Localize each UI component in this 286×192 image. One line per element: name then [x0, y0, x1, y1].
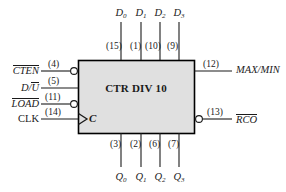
signal-label-q1: Q1: [133, 172, 149, 184]
clock-input-label: C: [89, 113, 96, 124]
signal-label-d0: D0: [113, 8, 129, 20]
pin-number-d3: (9): [167, 42, 178, 52]
pin-number-d2: (10): [145, 42, 161, 52]
signal-label-cten: CTEN: [0, 65, 39, 77]
pin-number-q3: (7): [168, 140, 179, 150]
signal-label-q0: Q0: [113, 172, 129, 184]
pin-number-q2: (6): [149, 140, 160, 150]
pin-number-d0: (15): [106, 42, 122, 52]
signal-label-rco: RCO: [236, 114, 257, 126]
signal-label-d2: D2: [152, 8, 168, 20]
signal-label-q2: Q2: [152, 172, 168, 184]
pin-number-q1: (2): [130, 140, 141, 150]
pin-number-d1: (1): [130, 42, 141, 52]
signal-label-maxmin: MAX/MIN: [236, 65, 280, 76]
signal-label-q3: Q3: [171, 172, 187, 184]
pin-number-clk: (14): [45, 108, 61, 118]
block-title: CTR DIV 10: [78, 83, 194, 94]
signal-label-du: D/U: [0, 82, 39, 94]
logic-block-diagram: [0, 0, 286, 192]
signal-label-d3: D3: [171, 8, 187, 20]
pin-number-rco: (13): [207, 108, 223, 118]
counter-block-diagram-page: { "diagram": { "title": "CTR DIV 10", "b…: [0, 0, 286, 192]
inversion-bubble-load: [71, 101, 78, 108]
signal-label-load: LOAD: [0, 98, 39, 110]
pin-number-cten: (4): [48, 60, 59, 70]
pin-number-q0: (3): [110, 140, 121, 150]
pin-number-du: (5): [48, 77, 59, 87]
inversion-bubble-rco: [196, 116, 203, 123]
pin-number-maxmin: (12): [203, 60, 219, 70]
pin-number-load: (11): [45, 93, 60, 103]
signal-label-d1: D1: [133, 8, 149, 20]
inversion-bubble-cten: [71, 68, 78, 75]
signal-label-clk: CLK: [0, 114, 39, 125]
